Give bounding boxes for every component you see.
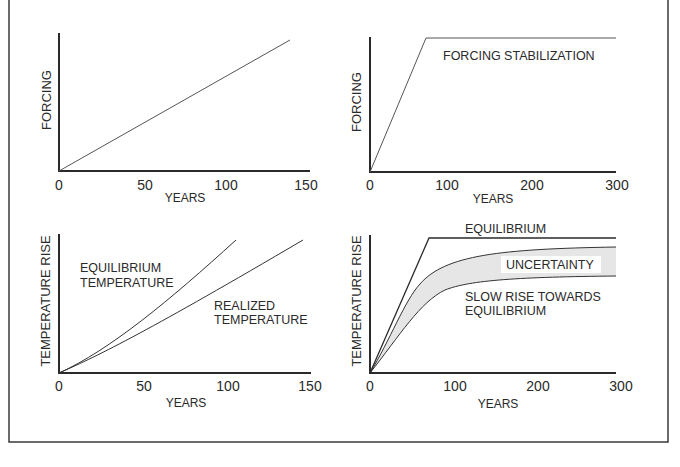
- panel-top-left: FORCING 0 50 100 150 YEARS: [39, 33, 317, 205]
- forcing-stabilization-annotation: FORCING STABILIZATION: [443, 49, 595, 63]
- panel-top-right: FORCING FORCING STABILIZATION 0 100 200 …: [349, 37, 628, 206]
- y-axis-label: TEMPERATURE RISE: [38, 235, 53, 367]
- equilibrium-temperature-curve: [59, 240, 236, 373]
- equilibrium-label-line2: TEMPERATURE: [80, 276, 174, 290]
- x-axis-label: YEARS: [478, 397, 519, 411]
- equilibrium-annotation: EQUILIBRIUM: [465, 222, 546, 236]
- x-tick: 300: [605, 177, 629, 193]
- figure: FORCING 0 50 100 150 YEARS FORCING FORCI…: [0, 0, 680, 467]
- x-tick: 200: [520, 177, 544, 193]
- x-tick: 50: [137, 177, 153, 193]
- x-tick: 150: [298, 378, 322, 394]
- x-tick: 0: [366, 378, 374, 394]
- y-axis-label: TEMPERATURE RISE: [349, 235, 364, 367]
- x-tick: 100: [443, 378, 467, 394]
- x-tick: 150: [294, 177, 318, 193]
- panel-bottom-left: TEMPERATURE RISE EQUILIBRIUM TEMPERATURE…: [38, 234, 321, 410]
- x-axis-label: YEARS: [165, 191, 206, 205]
- realized-label-line2: TEMPERATURE: [214, 313, 308, 327]
- uncertainty-annotation: UNCERTAINTY: [506, 258, 594, 272]
- equilibrium-label-line1: EQUILIBRIUM: [80, 261, 161, 275]
- x-tick: 0: [55, 378, 63, 394]
- realized-label-line1: REALIZED: [214, 299, 275, 313]
- x-tick: 0: [55, 177, 63, 193]
- slow-rise-label-line2: EQUILIBRIUM: [465, 304, 546, 318]
- x-axis-label: YEARS: [473, 192, 514, 206]
- x-tick: 100: [214, 177, 238, 193]
- slow-rise-label-line1: SLOW RISE TOWARDS: [465, 290, 601, 304]
- x-tick: 300: [609, 378, 633, 394]
- x-tick: 0: [366, 177, 374, 193]
- y-axis-label: FORCING: [349, 72, 364, 132]
- figure-svg: FORCING 0 50 100 150 YEARS FORCING FORCI…: [0, 0, 680, 467]
- x-tick: 100: [435, 177, 459, 193]
- panel-bottom-right: TEMPERATURE RISE EQUILIBRIUM UNCERTAINTY…: [349, 222, 632, 411]
- frame-border: [9, 0, 668, 442]
- forcing-line: [59, 40, 290, 171]
- x-tick: 200: [526, 378, 550, 394]
- axes: [59, 33, 310, 171]
- x-tick: 100: [216, 378, 240, 394]
- y-axis-label: FORCING: [39, 70, 54, 130]
- x-axis-label: YEARS: [166, 396, 207, 410]
- x-tick: 50: [136, 378, 152, 394]
